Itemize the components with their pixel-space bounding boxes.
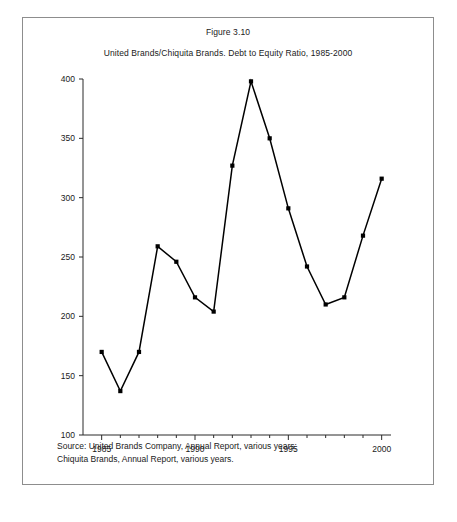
data-point-marker (212, 309, 216, 313)
y-tick-label: 150 (61, 371, 75, 381)
line-chart: 100150200250300350400 1985199019952000 (23, 18, 435, 486)
data-line (102, 81, 382, 391)
y-tick-label: 300 (61, 193, 75, 203)
y-axis: 100150200250300350400 (61, 74, 83, 440)
data-point-marker (100, 350, 104, 354)
data-point-marker (305, 264, 309, 268)
data-point-marker (361, 234, 365, 238)
y-tick-label: 350 (61, 133, 75, 143)
data-point-marker (268, 136, 272, 140)
x-tick-label: 2000 (372, 444, 391, 454)
chart-plot-area: 100150200250300350400 1985199019952000 (23, 18, 435, 486)
data-point-marker (249, 79, 253, 83)
data-point-marker (324, 302, 328, 306)
figure-frame: Figure 3.10 United Brands/Chiquita Brand… (22, 17, 434, 485)
data-point-marker (342, 295, 346, 299)
data-point-marker (174, 260, 178, 264)
y-tick-label: 100 (61, 430, 75, 440)
data-point-marker (193, 295, 197, 299)
y-tick-label: 250 (61, 252, 75, 262)
data-point-marker (230, 164, 234, 168)
data-point-marker (118, 389, 122, 393)
y-tick-label: 200 (61, 311, 75, 321)
data-point-marker (156, 244, 160, 248)
y-tick-label: 400 (61, 74, 75, 84)
source-note: Source: United Brands Company, Annual Re… (57, 440, 297, 466)
data-point-marker (137, 350, 141, 354)
data-point-marker (286, 206, 290, 210)
data-point-marker (380, 177, 384, 181)
data-series-debt-to-equity (100, 79, 384, 393)
